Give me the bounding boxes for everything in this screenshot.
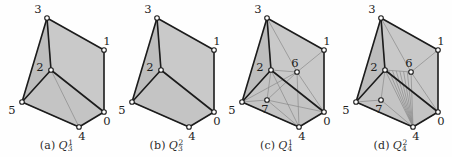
node-label-2: 2 (370, 60, 377, 74)
caption-prefix: (a) (40, 139, 56, 152)
node-3 (45, 16, 50, 21)
panel-a: 012345(a)Q31 (0, 0, 113, 157)
node-label-7: 7 (261, 102, 268, 116)
node-1 (102, 48, 107, 53)
node-2 (269, 68, 274, 73)
caption-superscript: 1 (288, 138, 293, 147)
node-1 (322, 48, 327, 53)
node-3 (379, 16, 384, 21)
caption-symbol: Q (56, 139, 68, 152)
node-label-1: 1 (323, 34, 330, 48)
node-label-0: 0 (437, 114, 444, 128)
panel-b: 012345(b)Q32 (110, 0, 223, 157)
node-6 (295, 70, 300, 75)
panel-c: 01234567(c)Q41 (220, 0, 333, 157)
node-label-1: 1 (437, 34, 444, 48)
node-1 (436, 48, 441, 53)
node-label-2: 2 (256, 60, 263, 74)
caption-symbol: Q (275, 139, 287, 152)
node-3 (155, 16, 160, 21)
node-5 (354, 100, 359, 105)
caption-prefix: (c) (260, 139, 275, 152)
caption-superscript: 2 (402, 138, 407, 147)
node-6 (409, 70, 414, 75)
node-2 (159, 68, 164, 73)
caption-symbol: Q (166, 139, 178, 152)
panel-caption: (c)Q41 (220, 138, 333, 153)
node-label-2: 2 (36, 60, 43, 74)
node-label-3: 3 (368, 2, 375, 16)
node-label-3: 3 (34, 2, 41, 16)
caption-superscript: 2 (178, 138, 183, 147)
panel-caption: (b)Q32 (110, 138, 223, 153)
caption-prefix: (d) (374, 139, 390, 152)
node-2 (49, 68, 54, 73)
caption-superscript: 1 (68, 138, 73, 147)
node-5 (20, 100, 25, 105)
caption-prefix: (b) (150, 139, 166, 152)
prism-triangulation-figure: 012345(a)Q31012345(b)Q3201234567(c)Q4101… (0, 0, 452, 157)
node-2 (383, 68, 388, 73)
node-5 (240, 100, 245, 105)
node-label-7: 7 (375, 102, 382, 116)
node-5 (130, 100, 135, 105)
node-3 (265, 16, 270, 21)
node-label-6: 6 (405, 56, 412, 70)
panel-caption: (a)Q31 (0, 138, 113, 153)
node-label-3: 3 (144, 2, 151, 16)
panel-d: 01234567(d)Q42 (334, 0, 447, 157)
panel-caption: (d)Q42 (334, 138, 447, 153)
node-label-5: 5 (342, 103, 349, 117)
node-label-3: 3 (254, 2, 261, 16)
node-label-0: 0 (323, 114, 330, 128)
caption-symbol: Q (390, 139, 402, 152)
node-label-5: 5 (118, 103, 125, 117)
node-1 (212, 48, 217, 53)
node-label-5: 5 (228, 103, 235, 117)
node-label-5: 5 (8, 103, 15, 117)
node-label-2: 2 (146, 60, 153, 74)
node-label-6: 6 (291, 56, 298, 70)
